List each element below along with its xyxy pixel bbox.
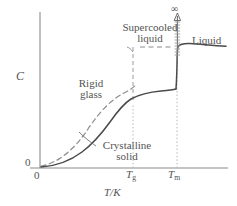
supercooled-tick-leader	[127, 47, 133, 52]
tg-subscript: g	[132, 173, 136, 182]
supercooled-liquid-annotation: Supercooledliquid	[114, 22, 186, 45]
rigid-glass-annotation: Rigidglass	[70, 78, 112, 101]
crystalline-line-2: solid	[96, 151, 158, 162]
crystalline-solid-annotation: Crystallinesolid	[96, 140, 158, 163]
y-origin-label: 0	[25, 157, 31, 168]
crystalline-leader-line	[79, 132, 96, 146]
supercooled-line-2: liquid	[114, 33, 186, 44]
rigid-line-2: glass	[70, 89, 112, 100]
liquid-annotation: Liquid	[192, 35, 221, 46]
y-axis-label: C	[16, 70, 24, 82]
tm-tick-label: Tm	[168, 169, 180, 182]
heat-capacity-chart: C 0 0 Tg Tm T/K Supercooledliquid Liquid…	[0, 0, 237, 206]
tm-subscript: m	[174, 173, 180, 182]
x-axis-label: T/K	[104, 187, 121, 198]
tg-tick-label: Tg	[126, 169, 136, 182]
x-origin-label: 0	[34, 170, 40, 181]
infinity-label: ∞	[171, 4, 178, 14]
